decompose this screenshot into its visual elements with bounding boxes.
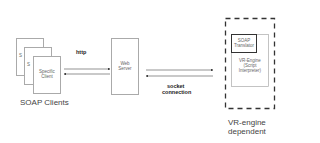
http-arrows [64, 69, 110, 74]
vr-engine-dependent-caption-2: dependent [228, 127, 266, 136]
soap-translator-label-2: Translator [232, 43, 256, 48]
socket-arrows [146, 70, 213, 76]
vr-engine-dependent-caption-1: VR-engine [228, 118, 266, 127]
vr-engine-label-3: Interpreter) [232, 68, 268, 73]
